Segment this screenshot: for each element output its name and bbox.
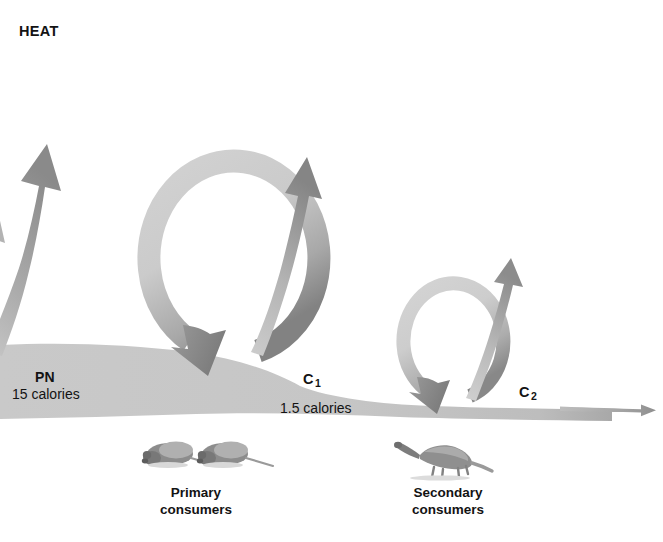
c2-subscript: 2 (529, 390, 536, 402)
heat-arrow-icon-main (0, 144, 61, 356)
weasel-icon (394, 442, 492, 481)
primary-consumers-label: Primary consumers (150, 485, 242, 519)
secondary-consumers-label: Secondary consumers (398, 485, 498, 519)
c2-label: C2 (519, 384, 537, 401)
c1-subscript: 1 (313, 377, 320, 389)
loop-primary-group (149, 157, 322, 376)
c1-label: C1 (303, 371, 321, 388)
c1-letter: C (303, 371, 313, 387)
c2-letter: C (519, 384, 529, 400)
pn-calories-label: 15 calories (12, 386, 80, 403)
secondary-consumers-line1: Secondary (398, 485, 498, 502)
heat-label: HEAT (19, 23, 59, 40)
mouse-icon-2 (197, 442, 273, 469)
primary-consumer-animals (142, 442, 273, 469)
flow-diagram-svg (0, 0, 663, 542)
heat-arrow-icon-secondary (0, 212, 5, 303)
primary-consumers-line2: consumers (150, 502, 242, 519)
energy-flow-diagram: HEAT PN 15 calories C1 1.5 calories C2 P… (0, 0, 663, 542)
loop-secondary-group (403, 258, 523, 414)
primary-consumers-line1: Primary (150, 485, 242, 502)
pn-label: PN (35, 369, 55, 386)
c1-calories-label: 1.5 calories (280, 400, 352, 417)
heat-arrow-pn-group (0, 144, 61, 356)
secondary-consumers-line2: consumers (398, 502, 498, 519)
